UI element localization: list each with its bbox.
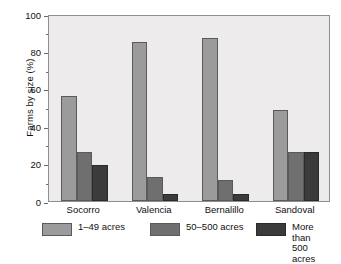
y-tick-mark <box>46 184 49 185</box>
y-tick-0: 0 <box>0 202 48 203</box>
legend-item[interactable]: More than 500 acres <box>256 222 332 264</box>
legend-item[interactable]: 50–500 acres <box>150 222 244 236</box>
legend-label: More than 500 acres <box>292 222 332 264</box>
y-tick-40: 40 <box>0 127 48 128</box>
y-tick-60: 60 <box>0 90 48 91</box>
legend-label: 50–500 acres <box>186 222 244 233</box>
y-axis-title: Farms by size (%) <box>24 23 35 173</box>
y-tick-mark <box>44 53 48 54</box>
bar <box>163 194 179 201</box>
y-minor-tick-70 <box>0 71 48 72</box>
bar <box>273 110 289 201</box>
y-tick-label: 100 <box>25 10 41 22</box>
y-tick-mark <box>44 16 48 17</box>
x-axis-label-bernalillo: Bernalillo <box>189 204 260 215</box>
y-tick-mark <box>44 128 48 129</box>
y-tick-mark <box>46 146 49 147</box>
bar <box>132 42 148 201</box>
y-tick-label: 20 <box>30 159 41 171</box>
y-tick-100: 100 <box>0 15 48 16</box>
y-tick-mark <box>46 109 49 110</box>
y-minor-tick-50 <box>0 109 48 110</box>
y-minor-tick-30 <box>0 146 48 147</box>
x-axis-label-sandoval: Sandoval <box>260 204 331 215</box>
bar <box>304 152 320 201</box>
y-tick-label: 40 <box>30 122 41 134</box>
legend-swatch <box>150 223 180 236</box>
y-tick-label: 0 <box>36 197 41 209</box>
legend-swatch <box>42 223 72 236</box>
legend-label: 1–49 acres <box>78 222 125 233</box>
plot-inner <box>49 16 329 201</box>
y-tick-label: 80 <box>30 47 41 59</box>
y-minor-tick-10 <box>0 183 48 184</box>
y-tick-label: 60 <box>30 84 41 96</box>
bar <box>61 96 77 201</box>
legend-item[interactable]: 1–49 acres <box>42 222 125 236</box>
bar <box>77 152 93 201</box>
chart-legend: 1–49 acres50–500 acresMore than 500 acre… <box>42 222 332 248</box>
bar <box>218 180 234 201</box>
y-tick-mark <box>46 72 49 73</box>
bar <box>288 152 304 201</box>
y-minor-tick-90 <box>0 34 48 35</box>
bar <box>147 177 163 201</box>
x-axis-label-socorro: Socorro <box>48 204 119 215</box>
x-axis-label-valencia: Valencia <box>119 204 190 215</box>
y-tick-80: 80 <box>0 52 48 53</box>
legend-swatch <box>256 223 286 236</box>
bar <box>202 38 218 201</box>
y-tick-mark <box>44 165 48 166</box>
bar <box>233 194 249 201</box>
plot-area <box>48 15 330 202</box>
y-tick-mark <box>44 90 48 91</box>
y-tick-mark <box>46 34 49 35</box>
bar <box>92 165 108 201</box>
y-tick-20: 20 <box>0 165 48 166</box>
